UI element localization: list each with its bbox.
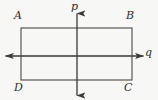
vertex-label-c: C <box>124 82 132 93</box>
vertex-label-b: B <box>126 10 134 21</box>
diagram-canvas <box>0 0 158 100</box>
axis-label-p: p <box>71 1 78 12</box>
vertex-label-d: D <box>14 82 23 93</box>
vertex-label-a: A <box>14 10 22 21</box>
axis-label-q: q <box>145 47 152 58</box>
figure-container: A B C D p q <box>0 0 158 100</box>
